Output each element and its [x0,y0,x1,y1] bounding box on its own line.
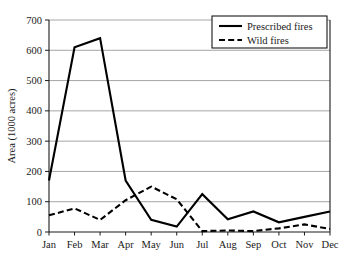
x-tick-label: Apr [117,239,134,250]
y-tick-label: 300 [26,136,42,147]
x-tick-label: May [142,239,162,250]
x-tick-labels: JanFebMarAprMayJunJulAugSepOctNovDec [42,239,339,250]
chart-legend: Prescribed firesWild fires [212,16,327,48]
y-tick-label: 0 [37,227,42,238]
x-tick-label: Jan [42,239,57,250]
x-tick-label: Jun [169,239,184,250]
legend-label-2: Wild fires [247,35,289,46]
x-tick-label: Aug [219,239,238,250]
y-tick-label: 700 [26,15,42,26]
x-tick-label: Jul [196,239,208,250]
y-axis-title-text: Area (1000 acres) [6,88,18,164]
x-tick-label: Mar [91,239,109,250]
y-tick-marks [45,20,49,232]
chart-canvas: 0100200300400500600700 JanFebMarAprMayJu… [0,0,346,271]
plot-background [49,20,330,232]
y-tick-label: 600 [26,45,42,56]
y-tick-label: 500 [26,75,42,86]
y-tick-label: 200 [26,166,42,177]
x-tick-label: Sep [245,239,261,250]
legend-label-1: Prescribed fires [247,21,313,32]
x-tick-label: Dec [322,239,339,250]
x-tick-label: Oct [271,239,286,250]
y-tick-label: 100 [26,196,42,207]
y-axis-title: Area (1000 acres) [6,88,18,164]
line-chart: 0100200300400500600700 JanFebMarAprMayJu… [0,0,346,271]
y-tick-label: 400 [26,105,42,116]
x-tick-label: Feb [67,239,83,250]
y-tick-labels: 0100200300400500600700 [26,15,42,238]
x-tick-label: Nov [295,239,314,250]
